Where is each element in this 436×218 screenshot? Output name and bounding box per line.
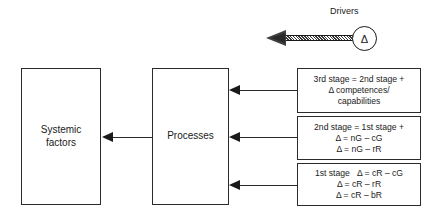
arrow-head-stage-2-icon xyxy=(229,132,240,142)
node-systemic-factors: Systemic factors xyxy=(21,68,101,205)
systemic-factors-line-1: Systemic xyxy=(26,124,96,137)
stage-1-line-1: 1st stage Δ = cR – cG xyxy=(302,168,416,179)
stage-1-line-3: Δ = cR – bR xyxy=(302,190,416,201)
stage-2-line-3: Δ = nG – rR xyxy=(302,144,416,155)
arrow-head-processes-to-systemic-factors-icon xyxy=(102,132,113,142)
connector-stage-1-to-processes xyxy=(240,185,297,186)
arrow-head-stage-1-icon xyxy=(229,180,240,190)
stage-3-line-2: Δ competences/ xyxy=(302,85,416,96)
stage-2-text: 2nd stage = 1st stage + Δ = nG – cG Δ = … xyxy=(298,122,420,155)
stage-1-line-2: Δ = cR – rR xyxy=(302,179,416,190)
stage-2-line-2: Δ = nG – cG xyxy=(302,133,416,144)
processes-label: Processes xyxy=(157,130,224,143)
arrow-head-stage-3-icon xyxy=(229,85,240,95)
stage-3-line-3: capabilities xyxy=(302,96,416,107)
connector-stage-2-to-processes xyxy=(240,137,297,138)
processes-text: Processes xyxy=(153,130,228,143)
node-processes: Processes xyxy=(152,68,229,205)
stage-2-line-1: 2nd stage = 1st stage + xyxy=(302,122,416,133)
node-stage-3: 3rd stage = 2nd stage + Δ competences/ c… xyxy=(297,68,421,113)
connector-processes-to-systemic-factors xyxy=(113,137,152,138)
systemic-factors-line-2: factors xyxy=(26,137,96,150)
stage-3-text: 3rd stage = 2nd stage + Δ competences/ c… xyxy=(298,74,420,107)
driver-arrowhead-inner-icon xyxy=(271,33,285,43)
driver-delta-symbol: Δ xyxy=(361,33,368,45)
stage-3-line-1: 3rd stage = 2nd stage + xyxy=(302,74,416,85)
systemic-factors-text: Systemic factors xyxy=(22,124,100,150)
driver-delta-node: Δ xyxy=(352,26,377,51)
node-stage-1: 1st stage Δ = cR – cG Δ = cR – rR Δ = cR… xyxy=(297,163,421,206)
stage-1-text: 1st stage Δ = cR – cG Δ = cR – rR Δ = cR… xyxy=(298,168,420,201)
drivers-label: Drivers xyxy=(330,6,359,16)
diagram-canvas: Drivers Δ Systemic factors Processes 3rd… xyxy=(0,0,436,218)
driver-arrow-shaft xyxy=(285,35,353,41)
node-stage-2: 2nd stage = 1st stage + Δ = nG – cG Δ = … xyxy=(297,116,421,160)
connector-stage-3-to-processes xyxy=(240,90,297,91)
